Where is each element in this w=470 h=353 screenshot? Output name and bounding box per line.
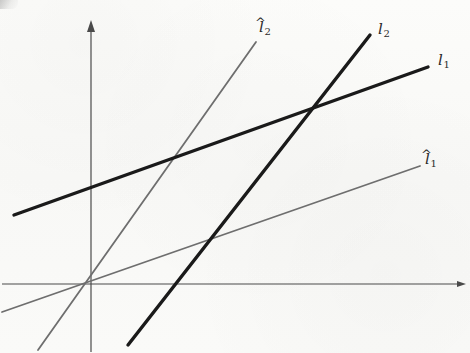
label-l1-hat: ^l1 [425,152,437,169]
label-l2-hat: ^l2 [259,20,271,37]
x-axis-arrowhead [457,281,466,287]
label-l1-hat-glyph: ^l [425,152,430,167]
label-l1: l1 [438,53,450,70]
label-l2-hat-glyph: ^l [259,20,264,35]
label-l2: l2 [378,22,390,39]
label-l2-subscript: 2 [383,28,390,39]
hat-accent-icon: ^ [421,148,432,161]
line-l1 [14,67,428,215]
y-axis-arrowhead [87,20,95,32]
true-lines-group [14,35,428,345]
line-l2 [128,35,370,345]
label-l1-subscript: 1 [443,59,450,70]
diagram-canvas [0,0,470,353]
line-diagram-figure: ^l2 l2 l1 ^l1 [0,0,470,353]
hat-accent-icon: ^ [255,16,266,29]
